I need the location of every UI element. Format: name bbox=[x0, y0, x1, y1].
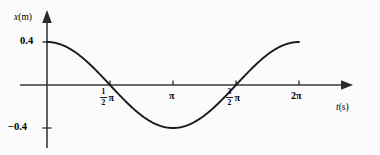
fraction-one-half: 1 2 bbox=[100, 88, 107, 106]
x-axis-arrowhead bbox=[341, 80, 353, 90]
pi-symbol: π bbox=[109, 92, 114, 103]
fraction-numerator: 1 bbox=[102, 88, 106, 96]
y-tick-label-positive: 0.4 bbox=[20, 35, 33, 46]
pi-symbol: π bbox=[235, 92, 240, 103]
y-axis-label-unit: (m) bbox=[18, 12, 32, 22]
y-axis-arrowhead bbox=[42, 10, 52, 23]
x-tick-label-pi: π bbox=[169, 90, 174, 101]
physics-graph-figure: x(m) t(s) 0.4 −0.4 1 2 π π 3 2 π 2π bbox=[0, 0, 380, 155]
x-tick-label-twopi: 2π bbox=[291, 90, 301, 101]
axis-group bbox=[20, 10, 353, 148]
x-tick-label-threehalfpi: 3 2 π bbox=[226, 88, 240, 106]
y-tick-label-negative: −0.4 bbox=[8, 121, 27, 132]
fraction-three-halves: 3 2 bbox=[226, 88, 233, 106]
fraction-denominator: 2 bbox=[228, 99, 232, 107]
y-axis-label: x(m) bbox=[14, 6, 32, 24]
fraction-numerator: 3 bbox=[228, 88, 232, 96]
x-axis-label: t(s) bbox=[336, 96, 349, 114]
plot-canvas bbox=[0, 0, 380, 155]
fraction-denominator: 2 bbox=[102, 99, 106, 107]
x-axis-label-unit: (s) bbox=[339, 102, 349, 112]
x-tick-label-halfpi: 1 2 π bbox=[100, 88, 114, 106]
